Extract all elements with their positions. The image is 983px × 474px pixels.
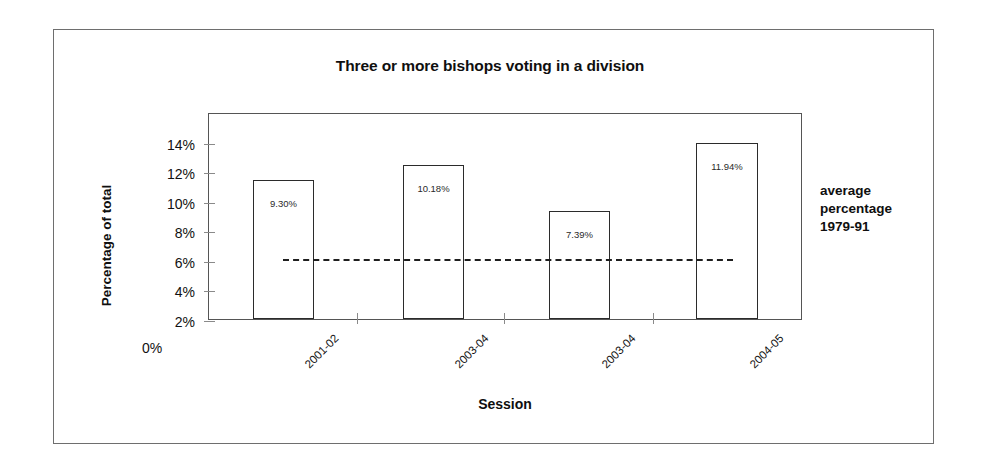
y-tick-mark-14: 14% <box>204 144 215 145</box>
y-tick-mark-10: 10% <box>204 203 215 204</box>
plot-area: 2% 4% 6% 8% 10% 12% 14% 9.30% 10.18% <box>208 113 802 320</box>
chart-title: Three or more bishops voting in a divisi… <box>180 57 800 75</box>
y-tick-mark-12: 12% <box>204 173 215 174</box>
x-tick-mark-3 <box>653 313 654 324</box>
y-tick-label-14: 14% <box>167 137 195 153</box>
annotation-line-1: average <box>820 182 945 200</box>
x-axis-title: Session <box>420 396 590 412</box>
y-tick-label-10: 10% <box>167 196 195 212</box>
y-tick-label-4: 4% <box>175 284 195 300</box>
bar-value-label-1: 9.30% <box>254 198 313 209</box>
x-tick-mark-1 <box>357 313 358 324</box>
chart-page: Three or more bishops voting in a divisi… <box>0 0 983 474</box>
y-tick-mark-6: 6% <box>204 262 215 263</box>
bar-2003-04-b[interactable]: 7.39% <box>549 211 610 319</box>
y-tick-label-6: 6% <box>175 255 195 271</box>
y-tick-mark-8: 8% <box>204 232 215 233</box>
y-tick-mark-2: 2% <box>204 321 215 322</box>
x-tick-mark-2 <box>504 313 505 324</box>
y-tick-label-12: 12% <box>167 166 195 182</box>
annotation-line-2: percentage <box>820 200 945 218</box>
annotation-line-3: 1979-91 <box>820 218 945 236</box>
bar-2001-02[interactable]: 9.30% <box>253 180 314 319</box>
y-tick-label-0: 0% <box>142 340 162 356</box>
y-tick-label-8: 8% <box>175 225 195 241</box>
bar-value-label-4: 11.94% <box>697 161 757 172</box>
average-annotation: average percentage 1979-91 <box>820 182 945 237</box>
bar-value-label-3: 7.39% <box>550 229 609 240</box>
average-reference-line <box>283 259 733 261</box>
y-axis-title: Percentage of total <box>99 136 114 356</box>
bar-2004-05[interactable]: 11.94% <box>696 143 758 319</box>
y-tick-label-2: 2% <box>175 314 195 330</box>
bar-value-label-2: 10.18% <box>404 183 463 194</box>
bar-2003-04-a[interactable]: 10.18% <box>403 165 464 319</box>
y-tick-mark-4: 4% <box>204 291 215 292</box>
